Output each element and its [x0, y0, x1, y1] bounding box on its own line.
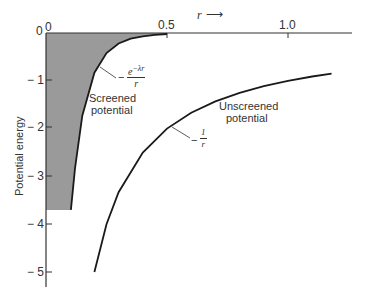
- unscreened-formula-leader: [172, 127, 190, 138]
- x-tick-label-0.5: 0.5: [158, 18, 175, 32]
- unscreened-formula-numerator: 1: [200, 127, 207, 139]
- unscreened-formula-denominator: r: [200, 139, 207, 150]
- screened-label-line1: Screened: [89, 92, 136, 104]
- x-axis-arrow-icon: ⟶: [206, 7, 223, 21]
- screened-formula-minus: −: [118, 71, 124, 83]
- y-tick-label-minus-4: − 4: [27, 217, 44, 231]
- y-tick-label-minus-2: − 2: [27, 120, 44, 134]
- y-tick-label-minus-5: − 5: [27, 265, 44, 279]
- y-tick-label-minus-3: − 3: [27, 169, 44, 183]
- unscreened-formula-minus: −: [191, 134, 197, 146]
- screened-potential-fill: [46, 33, 167, 210]
- unscreened-formula: 1 r: [200, 127, 207, 150]
- unscreened-label-line1: Unscreened: [219, 100, 278, 112]
- screened-formula: e−λr r: [127, 63, 145, 89]
- potential-energy-chart: 0 0 0.5 1.0 r ⟶ − 1 − 2 − 3 − 4 − 5 Pote…: [0, 0, 366, 299]
- unscreened-label-line2: potential: [226, 112, 268, 124]
- plot-area: [0, 0, 366, 299]
- screened-formula-denominator: r: [127, 78, 145, 89]
- screened-label-line2: potential: [91, 104, 133, 116]
- x-origin-label: 0: [45, 20, 52, 34]
- y-axis-label: Potential energy: [13, 117, 25, 197]
- y-tick-label-minus-1: − 1: [27, 73, 44, 87]
- x-tick-label-1.0: 1.0: [279, 18, 296, 32]
- screened-formula-exponent: −λr: [132, 64, 144, 73]
- y-origin-label: 0: [36, 24, 43, 38]
- x-axis-label: r: [197, 8, 202, 23]
- screened-formula-leader: [100, 67, 116, 78]
